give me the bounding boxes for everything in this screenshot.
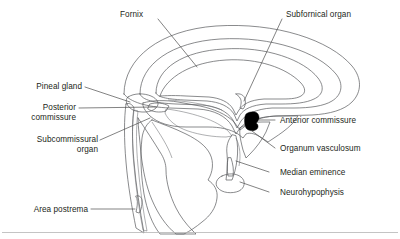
labels-group: Fornix Subfornical organ Pineal gland Po… xyxy=(31,10,360,214)
label-posterior-commissure-line1: Posterior xyxy=(43,103,76,112)
leader-neurohypophysis xyxy=(240,182,269,192)
subfornical-organ-shape xyxy=(236,94,245,109)
label-pineal-gland: Pineal gland xyxy=(36,82,82,91)
leader-median-eminence xyxy=(236,161,269,172)
label-median-eminence: Median eminence xyxy=(280,168,346,177)
label-subfornical-organ: Subfornical organ xyxy=(286,10,351,19)
leader-subfornical-organ xyxy=(244,19,282,101)
thalamus-mass xyxy=(143,101,298,142)
leader-pineal-gland xyxy=(85,87,130,102)
label-subcommissural-organ-line2: organ xyxy=(77,145,99,154)
label-anterior-commissure: Anterior commissure xyxy=(280,116,356,125)
label-neurohypophysis: Neurohypophysis xyxy=(280,188,344,197)
fornix-band xyxy=(160,60,305,115)
anterior-commissure-shape xyxy=(245,112,260,131)
pituitary-stalk xyxy=(227,158,233,176)
label-area-postrema: Area postrema xyxy=(34,205,89,214)
contour-stroke-2 xyxy=(152,122,172,158)
anatomical-figure: Fornix Subfornical organ Pineal gland Po… xyxy=(0,0,400,239)
brain-anatomy-group xyxy=(124,25,360,234)
neurohypophysis-bulb xyxy=(216,174,244,193)
leader-posterior-commissure xyxy=(79,107,156,108)
leader-fornix xyxy=(158,19,197,67)
midbrain-cerebellum xyxy=(141,120,217,234)
label-posterior-commissure-line2: commissure xyxy=(31,113,76,122)
label-subcommissural-organ-line1: Subcommissural xyxy=(37,135,98,144)
pons-medulla xyxy=(138,118,196,234)
brain-diagram-svg: Fornix Subfornical organ Pineal gland Po… xyxy=(0,0,400,239)
label-fornix: Fornix xyxy=(120,10,143,19)
label-organum-vasculosum: Organum vasculosum xyxy=(280,144,361,153)
